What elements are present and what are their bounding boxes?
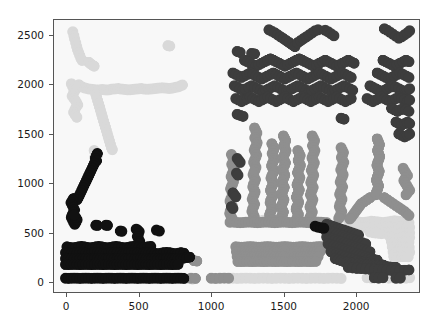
x-tick-mark <box>66 293 67 297</box>
x-tick-mark <box>139 293 140 297</box>
y-tick-label: 1000 <box>0 177 44 189</box>
x-tick-mark <box>211 293 212 297</box>
x-tick-mark <box>284 293 285 297</box>
y-tick-label: 2000 <box>0 78 44 90</box>
scatter-plot-figure: 05001000150020002500 0500100015002000 <box>0 0 437 334</box>
x-tick-mark <box>356 293 357 297</box>
x-tick-label: 1500 <box>270 300 297 312</box>
y-tick-label: 0 <box>0 276 44 288</box>
plot-area <box>53 19 420 293</box>
scatter-points-canvas <box>54 20 419 292</box>
y-tick-label: 2500 <box>0 29 44 41</box>
y-tick-label: 500 <box>0 227 44 239</box>
x-tick-label: 500 <box>129 300 149 312</box>
x-tick-label: 0 <box>63 300 70 312</box>
y-tick-label: 1500 <box>0 128 44 140</box>
x-tick-label: 2000 <box>343 300 370 312</box>
x-tick-label: 1000 <box>198 300 225 312</box>
